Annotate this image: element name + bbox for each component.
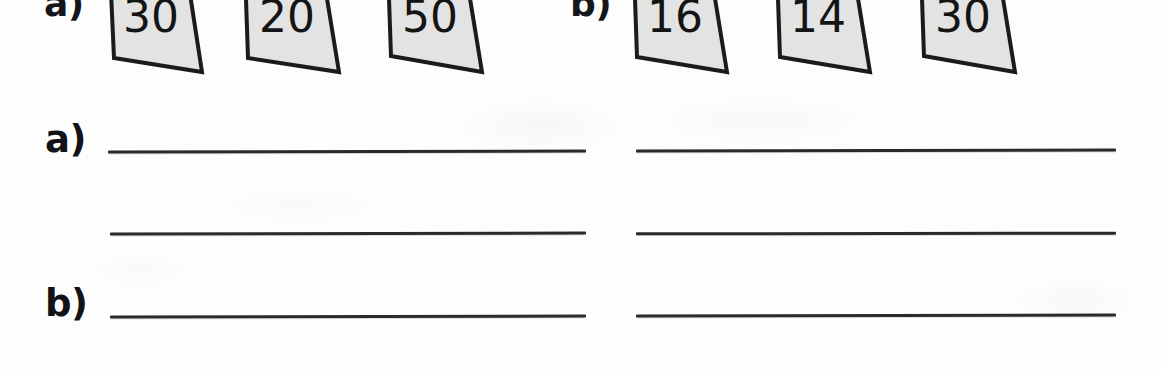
number-card-a-3[interactable]: 50 [382, 0, 478, 74]
answer-rule-left-3[interactable] [110, 315, 586, 319]
number-card-b-1[interactable]: 16 [628, 0, 724, 74]
number-card-b-2[interactable]: 14 [772, 0, 868, 74]
answer-label-a: a) [45, 121, 86, 158]
number-card-value: 14 [790, 0, 846, 42]
number-card-b-3[interactable]: 30 [915, 0, 1011, 74]
number-card-value: 30 [123, 0, 179, 42]
card-row-marker-a: a) [44, 0, 84, 22]
answer-rule-right-2[interactable] [636, 232, 1116, 236]
answer-label-b: b) [45, 285, 87, 322]
number-card-a-2[interactable]: 20 [240, 0, 336, 74]
number-card-value: 20 [259, 0, 315, 42]
number-card-value: 30 [935, 0, 991, 42]
number-card-a-1[interactable]: 30 [104, 0, 200, 74]
answer-rule-right-1[interactable] [636, 149, 1116, 153]
card-row-marker-b: b) [570, 0, 611, 22]
answer-rule-right-3[interactable] [636, 314, 1116, 318]
answer-rule-left-2[interactable] [110, 232, 586, 236]
number-card-value: 50 [402, 0, 458, 42]
number-card-value: 16 [647, 0, 703, 42]
worksheet-page: a) 30 20 50 b) 16 14 3 [0, 0, 1161, 373]
answer-rule-left-1[interactable] [108, 149, 586, 153]
